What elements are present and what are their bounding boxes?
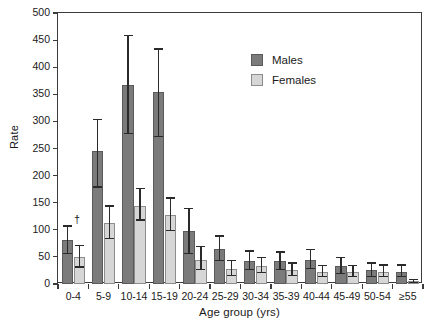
error-bar-stem xyxy=(79,245,80,268)
y-tick-mark xyxy=(53,175,58,176)
error-bar-stem xyxy=(158,48,159,137)
error-bar-males-4 xyxy=(183,208,194,254)
error-bar-stem xyxy=(219,235,220,261)
error-bar-cap-bottom xyxy=(227,275,236,276)
y-tick-mark xyxy=(53,94,58,95)
males-swatch-icon xyxy=(251,54,263,66)
x-tick-mark xyxy=(118,284,119,289)
y-tick-mark xyxy=(53,67,58,68)
error-bar-cap-top xyxy=(93,119,102,120)
y-tick-mark xyxy=(53,202,58,203)
error-bar-stem xyxy=(109,205,110,239)
error-bar-cap-top xyxy=(367,262,376,263)
footnote-dagger-annotation: † xyxy=(74,214,80,225)
legend-label-males: Males xyxy=(272,54,303,67)
error-bar-cap-bottom xyxy=(184,253,193,254)
y-tick-label: 50 xyxy=(38,250,50,262)
error-bar-cap-bottom xyxy=(245,269,254,270)
y-tick-label: 200 xyxy=(32,169,50,181)
error-bar-females-7 xyxy=(286,262,297,276)
bar-chart-figure: Rate 050100150200250300350400450500 0-45… xyxy=(0,0,439,328)
error-bar-cap-top xyxy=(379,264,388,265)
x-tick-mark xyxy=(179,284,180,289)
y-tick-mark xyxy=(53,121,58,122)
error-bar-stem xyxy=(170,197,171,231)
legend-label-females: Females xyxy=(272,74,316,87)
error-bar-stem xyxy=(139,188,140,221)
error-bar-females-5 xyxy=(226,260,237,276)
error-bar-cap-top xyxy=(276,251,285,252)
error-bar-cap-top xyxy=(306,249,315,250)
error-bar-cap-top xyxy=(288,262,297,263)
y-tick-mark xyxy=(53,229,58,230)
error-bar-cap-bottom xyxy=(257,272,266,273)
error-bar-cap-bottom xyxy=(154,136,163,137)
y-tick-mark xyxy=(53,40,58,41)
error-bar-cap-top xyxy=(257,257,266,258)
error-bar-stem xyxy=(97,119,98,188)
error-bar-cap-top xyxy=(166,197,175,198)
error-bar-males-7 xyxy=(274,251,285,270)
error-bar-cap-bottom xyxy=(318,276,327,277)
error-bar-cap-top xyxy=(154,48,163,49)
error-bar-males-2 xyxy=(122,35,133,134)
error-bar-females-3 xyxy=(165,197,176,231)
x-tick-mark xyxy=(301,284,302,289)
error-bar-cap-bottom xyxy=(409,282,418,283)
y-tick-mark xyxy=(53,148,58,149)
error-bar-males-10 xyxy=(366,262,377,277)
x-tick-mark xyxy=(331,284,332,289)
error-bar-males-9 xyxy=(335,257,346,274)
y-tick-label: 150 xyxy=(32,196,50,208)
x-tick-mark xyxy=(422,284,423,289)
y-tick-label: 250 xyxy=(32,142,50,154)
x-tick-mark xyxy=(57,284,58,289)
error-bar-males-11 xyxy=(396,264,407,277)
error-bar-cap-bottom xyxy=(105,238,114,239)
x-tick-mark xyxy=(362,284,363,289)
error-bar-cap-bottom xyxy=(397,276,406,277)
error-bar-stem xyxy=(200,246,201,270)
y-tick-label: 0 xyxy=(44,277,50,289)
error-bar-females-10 xyxy=(378,264,389,276)
y-tick-label: 100 xyxy=(32,223,50,235)
error-bar-stem xyxy=(249,250,250,270)
error-bar-females-9 xyxy=(347,265,358,277)
error-bar-stem xyxy=(340,257,341,274)
error-bar-stem xyxy=(188,208,189,254)
error-bar-females-8 xyxy=(317,265,328,277)
error-bar-males-0 xyxy=(62,225,73,254)
error-bar-cap-bottom xyxy=(124,133,133,134)
x-tick-mark xyxy=(149,284,150,289)
error-bar-stem xyxy=(279,251,280,270)
error-bar-cap-bottom xyxy=(348,276,357,277)
error-bar-cap-top xyxy=(124,35,133,36)
error-bar-cap-top xyxy=(63,225,72,226)
y-tick-mark xyxy=(53,256,58,257)
error-bar-cap-bottom xyxy=(379,276,388,277)
error-bar-cap-bottom xyxy=(276,269,285,270)
plot-area: 050100150200250300350400450500 0-45-910-… xyxy=(57,12,422,283)
error-bar-cap-bottom xyxy=(306,268,315,269)
x-tick-label: ≥55 xyxy=(382,290,434,302)
error-bar-cap-bottom xyxy=(215,260,224,261)
females-swatch-icon xyxy=(251,74,263,86)
x-tick-mark xyxy=(209,284,210,289)
error-bar-cap-top xyxy=(409,279,418,280)
y-tick-mark xyxy=(53,12,58,13)
error-bar-cap-top xyxy=(196,246,205,247)
error-bar-females-11 xyxy=(408,279,419,283)
error-bar-cap-bottom xyxy=(93,186,102,187)
error-bar-females-6 xyxy=(256,257,267,273)
error-bar-cap-top xyxy=(245,250,254,251)
error-bar-cap-top xyxy=(184,208,193,209)
error-bar-cap-top xyxy=(136,188,145,189)
x-tick-mark xyxy=(88,284,89,289)
y-tick-label: 400 xyxy=(32,60,50,72)
x-tick-mark xyxy=(270,284,271,289)
error-bar-stem xyxy=(127,35,128,134)
error-bar-males-5 xyxy=(214,235,225,261)
error-bar-stem xyxy=(231,260,232,276)
error-bar-cap-bottom xyxy=(63,253,72,254)
error-bar-females-4 xyxy=(195,246,206,270)
